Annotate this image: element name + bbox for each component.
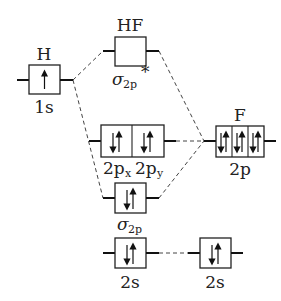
dash-h-to-sigma — [73, 80, 103, 198]
2px-subscript: x — [125, 167, 132, 180]
h-atom-label: H — [37, 44, 52, 64]
sigma-subscript: 2p — [128, 223, 142, 236]
mo-2s-box — [115, 238, 146, 268]
h-1s-orbital: H 1s — [17, 44, 73, 117]
nonbonding-2p-orbitals: 2p x 2p y — [89, 125, 176, 180]
dash-h-to-sigma-star — [73, 51, 103, 80]
2py-label: 2p — [135, 158, 157, 178]
dash-sigma-star-to-f — [159, 51, 204, 141]
f-2s-orbital: 2s — [188, 238, 243, 292]
h-1s-label: 1s — [34, 97, 54, 117]
mo-diagram: H 1s HF σ 2p * 2p x 2p y σ — [0, 0, 281, 301]
mo-2s-label: 2s — [120, 272, 140, 292]
f-atom-label: F — [234, 105, 246, 125]
2py-subscript: y — [156, 167, 164, 180]
dash-sigma-to-f — [159, 141, 204, 198]
f-2p-orbitals: F 2p — [204, 105, 276, 179]
sigma-2p-orbital: σ 2p — [103, 183, 159, 236]
2px-label: 2p — [103, 158, 125, 178]
f-2p-box — [216, 126, 264, 157]
sigma-star-orbital: HF σ 2p * — [103, 15, 159, 91]
f-2s-box — [200, 238, 231, 268]
sigma-star-subscript: 2p — [123, 78, 137, 91]
hf-molecule-label: HF — [117, 15, 144, 35]
f-2p-label: 2p — [229, 159, 251, 179]
f-2s-label: 2s — [205, 272, 225, 292]
mo-2s-orbital: 2s — [103, 238, 159, 292]
sigma-2p-box — [115, 183, 146, 213]
sigma-star-superscript: * — [141, 62, 150, 82]
